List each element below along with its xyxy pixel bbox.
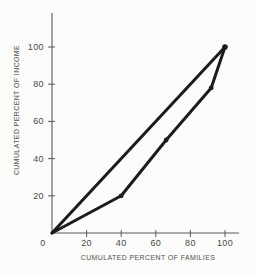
lorenz-curve-figure: 20406080100020406080100 CUMULATED PERCEN…	[0, 0, 256, 275]
chart-canvas: 20406080100020406080100 CUMULATED PERCEN…	[0, 0, 256, 275]
y-tick-label: 80	[33, 79, 44, 89]
x-axis-title: CUMULATED PERCENT OF FAMILIES	[81, 254, 216, 261]
y-tick-label: 40	[33, 154, 44, 164]
y-tick-label: 20	[33, 191, 44, 201]
y-tick-label: 100	[28, 42, 44, 52]
x-tick-label: 0	[40, 238, 45, 248]
data-point-marker	[119, 193, 124, 198]
x-tick-label: 100	[217, 238, 233, 248]
line-of-equality-line	[52, 47, 225, 233]
x-tick-label: 60	[150, 238, 161, 248]
x-tick-label: 80	[185, 238, 196, 248]
x-tick-label: 40	[116, 238, 127, 248]
data-point-marker	[209, 86, 214, 91]
x-tick-label: 20	[81, 238, 92, 248]
y-axis-title: CUMULATED PERCENT OF INCOME	[13, 45, 20, 175]
data-point-marker	[164, 138, 169, 143]
y-tick-label: 60	[33, 116, 44, 126]
plot-area: 20406080100020406080100	[28, 13, 239, 248]
